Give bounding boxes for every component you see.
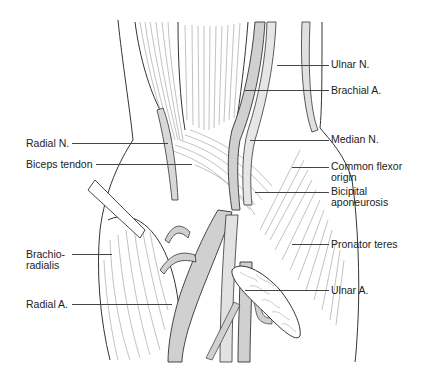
- leader-median-nerve: [250, 140, 329, 141]
- label-bicipital-line2: aponeurosis: [331, 197, 388, 208]
- leader-biceps-tendon: [96, 164, 192, 165]
- label-brachial-artery: Brachial A.: [331, 85, 381, 96]
- radial-nerve: [157, 108, 178, 200]
- label-radial-nerve: Radial N.: [26, 138, 69, 149]
- leader-brachioradialis: [72, 254, 112, 255]
- leader-radial-artery: [72, 304, 172, 305]
- label-biceps-tendon: Biceps tendon: [26, 159, 93, 170]
- label-ulnar-artery: Ulnar A.: [331, 285, 368, 296]
- leader-common-flexor: [292, 167, 329, 168]
- label-common-flexor-line2: origin: [331, 172, 357, 183]
- leader-brachial-artery: [245, 90, 329, 91]
- label-ulnar-nerve: Ulnar N.: [331, 59, 370, 70]
- label-pronator-teres: Pronator teres: [331, 239, 398, 250]
- leader-ulnar-artery: [245, 290, 329, 291]
- label-radial-artery: Radial A.: [26, 299, 68, 310]
- leader-radial-nerve: [72, 143, 168, 144]
- ulnar-nerve: [301, 22, 318, 132]
- label-brachioradialis-line2: radialis: [26, 260, 59, 271]
- label-median-nerve: Median N.: [331, 134, 379, 145]
- leader-ulnar-nerve: [277, 65, 329, 66]
- elbow-anatomy-figure: Radial N. Biceps tendon Brachio- radiali…: [0, 0, 426, 374]
- leader-pronator-teres: [292, 244, 329, 245]
- leader-bicipital-aponeurosis: [255, 192, 329, 193]
